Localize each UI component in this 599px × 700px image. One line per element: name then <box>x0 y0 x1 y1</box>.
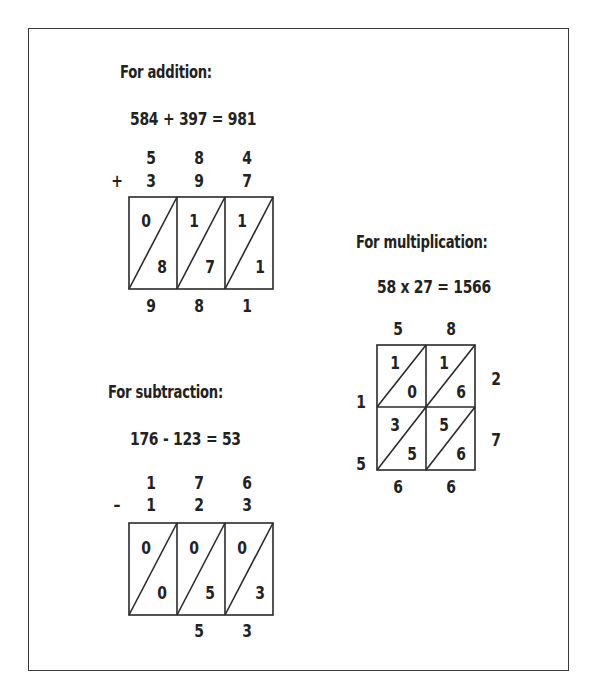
multiplication-equation: 58 x 27 = 1566 <box>377 276 491 297</box>
addition-top-digit: 8 <box>190 147 207 168</box>
addition-cell-lower: 8 <box>153 256 170 277</box>
addition-cell-upper: 0 <box>137 210 154 231</box>
subtraction-heading: For subtraction: <box>108 382 223 402</box>
subtraction-cell-upper: 0 <box>233 537 250 558</box>
multiplication-cell-upper: 1 <box>435 352 452 373</box>
multiplication-cell-lower: 6 <box>452 381 469 402</box>
multiplication-top-digit: 5 <box>389 318 406 339</box>
addition-bottom-digit: 3 <box>142 170 159 191</box>
multiplication-left-digit: 1 <box>352 391 369 412</box>
multiplication-bottom-digit: 6 <box>389 476 406 497</box>
multiplication-cell-upper: 5 <box>435 414 452 435</box>
addition-result-digit: 9 <box>142 295 159 316</box>
addition-top-digit: 5 <box>142 147 159 168</box>
addition-cell-upper: 1 <box>185 210 202 231</box>
subtraction-top-digit: 7 <box>190 472 207 493</box>
subtraction-cell-lower: 5 <box>201 582 218 603</box>
multiplication-heading: For multiplication: <box>356 232 488 252</box>
subtraction-cell-lower: 0 <box>153 582 170 603</box>
subtraction-bottom-digit: 2 <box>190 494 207 515</box>
multiplication-cell-upper: 1 <box>386 352 403 373</box>
multiplication-cell-lower: 5 <box>403 443 420 464</box>
multiplication-cell-upper: 3 <box>386 414 403 435</box>
multiplication-left-digit: 5 <box>352 453 369 474</box>
subtraction-result-digit: 5 <box>190 620 207 641</box>
addition-top-digit: 4 <box>238 147 255 168</box>
subtraction-top-digit: 6 <box>238 472 255 493</box>
subtraction-cell-upper: 0 <box>137 537 154 558</box>
addition-heading: For addition: <box>120 62 212 82</box>
subtraction-operator: – <box>108 494 125 515</box>
subtraction-cell-lower: 3 <box>251 582 268 603</box>
multiplication-bottom-digit: 6 <box>442 476 459 497</box>
subtraction-top-digit: 1 <box>142 472 159 493</box>
addition-operator: + <box>108 170 125 191</box>
addition-bottom-digit: 7 <box>238 170 255 191</box>
addition-cell-upper: 1 <box>233 210 250 231</box>
subtraction-cell-upper: 0 <box>185 537 202 558</box>
multiplication-right-digit: 2 <box>487 368 504 389</box>
multiplication-right-digit: 7 <box>487 429 504 450</box>
subtraction-bottom-digit: 1 <box>142 494 159 515</box>
figure-frame <box>28 28 569 671</box>
addition-cell-lower: 7 <box>201 256 218 277</box>
addition-result-digit: 1 <box>238 295 255 316</box>
addition-cell-lower: 1 <box>251 256 268 277</box>
addition-equation: 584 + 397 = 981 <box>130 108 256 129</box>
addition-result-digit: 8 <box>190 295 207 316</box>
multiplication-top-digit: 8 <box>442 318 459 339</box>
multiplication-cell-lower: 0 <box>403 381 420 402</box>
addition-bottom-digit: 9 <box>190 170 207 191</box>
subtraction-result-digit: 3 <box>238 620 255 641</box>
multiplication-cell-lower: 6 <box>452 443 469 464</box>
subtraction-bottom-digit: 3 <box>238 494 255 515</box>
subtraction-equation: 176 - 123 = 53 <box>130 428 241 449</box>
